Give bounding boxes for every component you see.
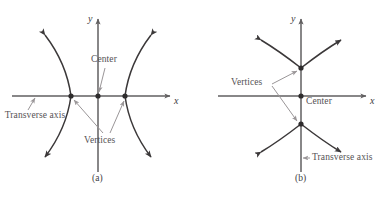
panel-b-vertices-leader-upper xyxy=(272,71,297,84)
panel-a-vertex-right-point xyxy=(122,93,127,98)
panel-a-transverse-axis-label: Transverse axis xyxy=(4,110,66,121)
panel-a-x-axis-label: x xyxy=(174,95,178,106)
panel-a-caption: (a) xyxy=(92,173,103,183)
panel-b-x-axis-label: x xyxy=(370,95,374,106)
panel-b-graphics xyxy=(218,19,366,172)
panel-a-vertices-leader-right xyxy=(110,101,124,133)
panel-a-vertex-left-point xyxy=(68,93,73,98)
hyperbola-figure: Transverse axis Center Vertices y x (a) … xyxy=(0,0,384,198)
panel-a-center-leader xyxy=(99,68,105,92)
panel-b-center-point xyxy=(298,93,303,98)
panel-a-center-label: Center xyxy=(91,54,117,65)
panel-b-vertex-lower-point xyxy=(298,121,303,126)
panel-b-caption: (b) xyxy=(295,173,306,183)
panel-b-transverse-axis-label: Transverse axis xyxy=(312,152,373,163)
panel-a-vertices-label: Vertices xyxy=(84,135,115,146)
panel-a-y-axis-label: y xyxy=(88,13,92,24)
panel-b-y-axis-label: y xyxy=(291,13,295,24)
panel-a-transverse-axis-leader xyxy=(28,98,35,110)
panel-b-vertex-upper-point xyxy=(298,65,303,70)
panel-b-vertices-label: Vertices xyxy=(231,77,262,88)
panel-b-center-label: Center xyxy=(306,96,332,107)
panel-a-center-point xyxy=(95,93,100,98)
panel-b-vertices-leader-lower xyxy=(272,86,297,121)
panel-a-graphics xyxy=(12,19,170,172)
